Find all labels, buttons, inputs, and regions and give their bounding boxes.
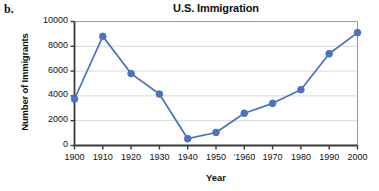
data-point-1920	[128, 70, 135, 77]
figure-panel: b. U.S. Immigration Number of Immigrants…	[0, 0, 379, 191]
data-point-1940	[184, 135, 191, 142]
line-chart-plot	[0, 0, 379, 191]
data-point-1930	[156, 91, 163, 98]
data-point-1990	[326, 50, 333, 57]
data-point-1950	[213, 129, 220, 136]
data-series-immigration	[75, 33, 358, 139]
data-point-1910	[99, 33, 106, 40]
data-point-1900	[71, 96, 78, 103]
data-point-1970	[269, 100, 276, 107]
axis-lines	[75, 22, 358, 146]
gridline-group	[75, 22, 358, 146]
data-point-2000	[354, 29, 361, 36]
data-point-1980	[298, 86, 305, 93]
series-line	[75, 33, 358, 139]
plot-frame	[75, 22, 358, 146]
data-point-1960	[241, 110, 248, 117]
